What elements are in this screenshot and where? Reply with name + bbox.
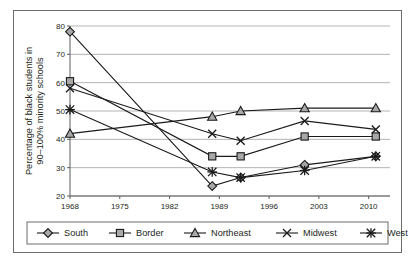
series-line-border bbox=[70, 81, 376, 156]
datapoint-west-2001 bbox=[300, 166, 310, 176]
x-tick-label-2010: 2010 bbox=[360, 202, 378, 211]
square-marker bbox=[209, 153, 216, 160]
x-tick-labels-group: 1968197519821989199620032010 bbox=[61, 202, 378, 211]
gridlines-group bbox=[70, 26, 390, 196]
datapoint-west-1968 bbox=[65, 105, 75, 115]
datapoint-border-1992 bbox=[237, 153, 244, 160]
datapoint-midwest-1988 bbox=[208, 130, 216, 138]
y-tick-label-50: 50 bbox=[56, 107, 65, 116]
square-marker bbox=[372, 133, 379, 140]
y-axis-title-line-1: Percentage of black students in bbox=[24, 47, 34, 175]
datapoint-west-2011 bbox=[371, 152, 381, 162]
legend-item-border[interactable]: Border bbox=[109, 228, 164, 238]
datapoint-border-2001 bbox=[301, 133, 308, 140]
figure-container: 20304050607080 1968197519821989199620032… bbox=[0, 0, 415, 265]
legend-label-northeast: Northeast bbox=[211, 228, 251, 238]
x-tick-label-2003: 2003 bbox=[310, 202, 328, 211]
data-series-group bbox=[65, 27, 380, 190]
legend-label-south: South bbox=[64, 228, 88, 238]
datapoint-border-2011 bbox=[372, 133, 379, 140]
y-tick-label-30: 30 bbox=[56, 164, 65, 173]
series-west bbox=[65, 105, 380, 183]
square-marker bbox=[116, 229, 123, 236]
datapoint-border-1968 bbox=[66, 78, 73, 85]
y-tick-label-60: 60 bbox=[56, 79, 65, 88]
datapoint-west-1992 bbox=[236, 173, 246, 183]
y-tick-labels-group: 20304050607080 bbox=[56, 22, 65, 201]
x-tick-label-1975: 1975 bbox=[111, 202, 129, 211]
y-axis-title-line-2: 90–100% minority schools bbox=[35, 57, 45, 165]
x-tick-label-1982: 1982 bbox=[161, 202, 179, 211]
x-tick-label-1968: 1968 bbox=[61, 202, 79, 211]
square-marker bbox=[301, 133, 308, 140]
series-northeast bbox=[65, 104, 380, 138]
legend-marker-west bbox=[366, 228, 376, 238]
line-chart: 20304050607080 1968197519821989199620032… bbox=[0, 0, 415, 265]
x-tick-label-1989: 1989 bbox=[210, 202, 228, 211]
chart-legend: SouthBorderNortheastMidwestWest bbox=[27, 222, 408, 244]
y-axis-title-group: Percentage of black students in90–100% m… bbox=[24, 47, 45, 175]
legend-label-west: West bbox=[387, 228, 408, 238]
x-tick-label-1996: 1996 bbox=[260, 202, 278, 211]
legend-marker-border bbox=[116, 229, 123, 236]
legend-label-midwest: Midwest bbox=[303, 228, 337, 238]
y-tick-label-20: 20 bbox=[56, 192, 65, 201]
datapoint-midwest-1992 bbox=[237, 137, 245, 145]
series-border bbox=[66, 78, 379, 160]
legend-label-border: Border bbox=[136, 228, 164, 238]
y-tick-label-40: 40 bbox=[56, 135, 65, 144]
series-south bbox=[66, 27, 381, 190]
square-marker bbox=[66, 78, 73, 85]
y-tick-label-80: 80 bbox=[56, 22, 65, 31]
axes-group bbox=[67, 26, 390, 199]
datapoint-west-1988 bbox=[207, 167, 217, 177]
y-tick-label-70: 70 bbox=[56, 50, 65, 59]
datapoint-border-1988 bbox=[209, 153, 216, 160]
legend-item-northeast[interactable]: Northeast bbox=[184, 228, 251, 238]
square-marker bbox=[237, 153, 244, 160]
